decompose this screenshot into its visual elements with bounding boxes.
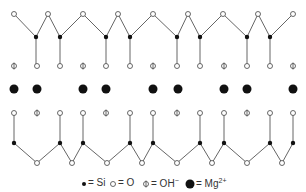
mg-ion bbox=[289, 85, 298, 94]
bond-line bbox=[14, 14, 36, 37]
bond-line bbox=[282, 143, 293, 163]
si-atom bbox=[175, 35, 179, 39]
bond-line bbox=[270, 143, 282, 163]
bond-line bbox=[200, 143, 212, 163]
mg-ion bbox=[102, 85, 111, 94]
si-atom bbox=[58, 35, 62, 39]
o-atom bbox=[140, 161, 145, 166]
si-atom bbox=[268, 141, 272, 145]
si-atom bbox=[198, 35, 202, 39]
oh-legend-text: = OH bbox=[151, 178, 175, 189]
o-atom bbox=[291, 12, 296, 17]
oh-legend-charge: − bbox=[175, 177, 179, 184]
o-atom bbox=[186, 12, 191, 17]
o-atom bbox=[268, 64, 273, 69]
mg-ion bbox=[79, 85, 88, 94]
o-atom bbox=[198, 64, 203, 69]
mg-ion bbox=[33, 85, 42, 94]
mg-legend-charge: 2+ bbox=[219, 177, 227, 184]
bond-line bbox=[14, 143, 37, 163]
o-legend-icon bbox=[111, 182, 116, 187]
si-atom bbox=[58, 141, 62, 145]
o-atom bbox=[58, 111, 63, 116]
o-atom bbox=[81, 111, 86, 116]
bond-line bbox=[60, 143, 72, 163]
bond-line bbox=[118, 14, 130, 37]
o-atom bbox=[35, 64, 40, 69]
bond-line bbox=[130, 143, 142, 163]
o-atom bbox=[280, 161, 285, 166]
o-atom bbox=[151, 111, 156, 116]
si-atom bbox=[12, 141, 16, 145]
o-atom bbox=[245, 161, 250, 166]
bond-line bbox=[37, 143, 60, 163]
bond-line bbox=[36, 14, 48, 37]
o-atom bbox=[128, 111, 133, 116]
bond-line bbox=[130, 14, 153, 37]
o-atom bbox=[128, 64, 133, 69]
legend: = Si = O = OH− = Mg2+ bbox=[0, 176, 306, 192]
si-atom bbox=[245, 35, 249, 39]
o-atom bbox=[116, 12, 121, 17]
si-atom bbox=[268, 35, 272, 39]
oh-group bbox=[151, 63, 156, 70]
oh-group bbox=[12, 63, 17, 70]
bond-line bbox=[177, 143, 200, 163]
si-atom bbox=[34, 35, 38, 39]
si-atom bbox=[128, 141, 132, 145]
si-atom bbox=[198, 141, 202, 145]
mg-ion bbox=[149, 85, 158, 94]
mg-legend-text: = Mg bbox=[196, 178, 219, 189]
si-atom bbox=[151, 141, 155, 145]
oh-group bbox=[35, 110, 40, 117]
oh-legend-label: = OH− bbox=[151, 177, 179, 189]
bond-line bbox=[258, 14, 270, 37]
bond-line bbox=[107, 143, 130, 163]
bond-line bbox=[223, 14, 247, 37]
o-atom bbox=[12, 12, 17, 17]
bond-line bbox=[200, 14, 223, 37]
o-atom bbox=[81, 12, 86, 17]
o-legend-label: = O bbox=[118, 177, 134, 188]
si-legend-label: = Si bbox=[88, 177, 106, 188]
o-atom bbox=[175, 64, 180, 69]
bond-line bbox=[224, 143, 247, 163]
bond-line bbox=[72, 143, 83, 163]
mg-ion bbox=[174, 85, 183, 94]
oh-group bbox=[175, 110, 180, 117]
bond-line bbox=[142, 143, 153, 163]
bond-line bbox=[83, 143, 107, 163]
bond-line bbox=[106, 14, 118, 37]
mg-ion bbox=[220, 85, 229, 94]
bond-line bbox=[48, 14, 60, 37]
si-atom bbox=[81, 141, 85, 145]
o-atom bbox=[70, 161, 75, 166]
bond-line bbox=[212, 143, 224, 163]
si-atom bbox=[104, 35, 108, 39]
oh-group bbox=[81, 63, 86, 70]
bond-line bbox=[270, 14, 293, 37]
o-atom bbox=[256, 12, 261, 17]
o-atom bbox=[268, 111, 273, 116]
oh-group bbox=[104, 110, 109, 117]
bond-line bbox=[247, 14, 258, 37]
si-legend-icon bbox=[82, 182, 86, 186]
o-atom bbox=[210, 161, 215, 166]
si-atom bbox=[291, 141, 295, 145]
oh-group bbox=[222, 63, 227, 70]
o-atom bbox=[175, 161, 180, 166]
mg-legend-icon bbox=[186, 180, 195, 189]
bond-line bbox=[60, 14, 83, 37]
si-atom bbox=[128, 35, 132, 39]
atoms bbox=[10, 12, 298, 166]
silicate-structure-diagram bbox=[0, 0, 306, 176]
bond-line bbox=[83, 14, 106, 37]
oh-legend-icon bbox=[144, 181, 149, 188]
o-atom bbox=[12, 111, 17, 116]
o-atom bbox=[245, 64, 250, 69]
bond-line bbox=[247, 143, 270, 163]
oh-group bbox=[291, 63, 296, 70]
bond-line bbox=[153, 143, 177, 163]
oh-group bbox=[245, 110, 250, 117]
mg-ion bbox=[243, 85, 252, 94]
